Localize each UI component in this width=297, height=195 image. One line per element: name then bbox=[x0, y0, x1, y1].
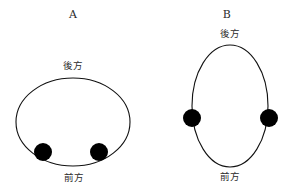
panel-a-ellipse bbox=[16, 78, 130, 166]
panel-b-ellipse bbox=[192, 45, 268, 167]
panel-a-node-left bbox=[34, 143, 52, 161]
panel-a-node-right bbox=[90, 143, 108, 161]
panel-a-letter: A bbox=[53, 8, 93, 21]
figure-canvas: A 後方 前方 B 後方 前方 bbox=[0, 0, 297, 195]
panel-b-front-label: 前方 bbox=[200, 169, 260, 183]
panel-a-front-label: 前方 bbox=[44, 170, 104, 184]
panel-a-rear-label: 後方 bbox=[43, 58, 103, 72]
panel-b-node-right bbox=[260, 109, 278, 127]
panel-b-letter: B bbox=[207, 8, 247, 21]
panel-b-rear-label: 後方 bbox=[200, 26, 260, 40]
panel-b-node-left bbox=[183, 109, 201, 127]
